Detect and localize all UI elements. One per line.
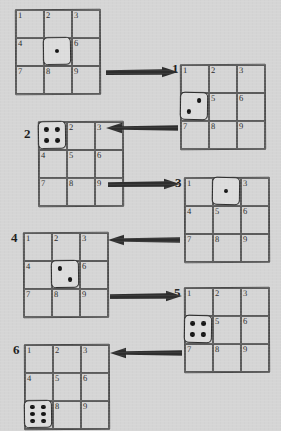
grid-cell-6[interactable]: 6: [241, 316, 269, 344]
arrow-left-icon: [110, 347, 182, 359]
grid-cell-9[interactable]: 9: [241, 344, 269, 372]
cell-number-label: 7: [187, 344, 191, 354]
grid-cell-4[interactable]: 4: [16, 38, 44, 66]
grid-cell-7[interactable]: 7: [24, 289, 52, 317]
arrow-left-icon: [106, 122, 178, 134]
grid-cell-2[interactable]: 2: [53, 345, 81, 373]
grid-cell-1[interactable]: 1: [25, 345, 53, 373]
grid-cell-6[interactable]: 6: [80, 261, 108, 289]
grid-cell-4[interactable]: 4: [24, 261, 52, 289]
cell-number-label: 8: [215, 234, 219, 244]
grid-cell-7[interactable]: 7: [181, 121, 209, 149]
grid-cell-8[interactable]: 8: [213, 344, 241, 372]
grid-cell-2[interactable]: 2: [209, 65, 237, 93]
cell-number-label: 7: [41, 178, 45, 188]
cell-number-label: 7: [26, 289, 30, 299]
grid-cell-3[interactable]: 3: [81, 345, 109, 373]
grid-cell-9[interactable]: 9: [72, 66, 100, 94]
grid-cell-3[interactable]: 3: [241, 178, 269, 206]
grid-cell-3[interactable]: 3: [237, 65, 265, 93]
grid-cell-1[interactable]: 1: [16, 10, 44, 38]
grid-cell-4[interactable]: 4: [39, 150, 67, 178]
grid-cell-7[interactable]: 7: [16, 66, 44, 94]
cell-number-label: 8: [54, 289, 58, 299]
grid-cell-7[interactable]: 7: [185, 344, 213, 372]
grid-cell-1[interactable]: 1: [185, 178, 213, 206]
die-face-2[interactable]: [180, 92, 208, 120]
arrow-left-icon: [108, 234, 180, 246]
cell-number-label: 3: [243, 288, 247, 298]
cell-number-label: 5: [215, 206, 219, 216]
grid-cell-5[interactable]: 5: [209, 93, 237, 121]
step-number-label: 2: [24, 127, 31, 140]
cell-number-label: 1: [183, 65, 187, 75]
die-face-6[interactable]: [24, 400, 52, 428]
grid-cell-5[interactable]: 5: [213, 316, 241, 344]
cell-number-label: 3: [243, 178, 247, 188]
cell-number-label: 7: [18, 66, 22, 76]
grid-cell-5[interactable]: 5: [213, 206, 241, 234]
die-face-2[interactable]: [51, 260, 79, 288]
grid-cell-8[interactable]: 8: [213, 234, 241, 262]
die-pip: [41, 419, 46, 424]
grid-cell-6[interactable]: 6: [241, 206, 269, 234]
cell-number-label: 9: [74, 66, 78, 76]
grid-cell-8[interactable]: 8: [44, 66, 72, 94]
grid-cell-4[interactable]: 4: [25, 373, 53, 401]
grid-cell-5[interactable]: 5: [67, 150, 95, 178]
grid-cell-8[interactable]: 8: [67, 178, 95, 206]
grid-cell-7[interactable]: 7: [185, 234, 213, 262]
die-pip: [190, 321, 195, 326]
cell-number-label: 1: [187, 178, 191, 188]
grid-cell-1[interactable]: 1: [181, 65, 209, 93]
grid-cell-1[interactable]: 1: [185, 288, 213, 316]
die-pip: [190, 332, 195, 337]
grid-cell-2[interactable]: 2: [213, 288, 241, 316]
cell-number-label: 2: [211, 65, 215, 75]
grid-cell-6[interactable]: 6: [72, 38, 100, 66]
grid-cell-6[interactable]: 6: [237, 93, 265, 121]
grid-cell-9[interactable]: 9: [241, 234, 269, 262]
cell-number-label: 8: [69, 178, 73, 188]
arrow-right-icon: [106, 66, 178, 78]
die-face-4[interactable]: [38, 121, 66, 149]
grid-cell-2[interactable]: 2: [44, 10, 72, 38]
grid-cell-6[interactable]: 6: [81, 373, 109, 401]
cell-number-label: 6: [243, 316, 247, 326]
cell-number-label: 7: [183, 121, 187, 131]
grid-cell-9[interactable]: 9: [81, 401, 109, 429]
grid-cell-8[interactable]: 8: [52, 289, 80, 317]
cell-number-label: 8: [55, 401, 59, 411]
grid-cell-2[interactable]: 2: [67, 122, 95, 150]
puzzle-grid: 123456789: [181, 65, 265, 149]
die-face-1[interactable]: [43, 37, 71, 65]
grid-cell-5[interactable]: 5: [53, 373, 81, 401]
cell-number-label: 9: [243, 344, 247, 354]
grid-cell-8[interactable]: 8: [209, 121, 237, 149]
cell-number-label: 2: [54, 233, 58, 243]
grid-cell-3[interactable]: 3: [72, 10, 100, 38]
die-pip: [201, 332, 206, 337]
cell-number-label: 8: [215, 344, 219, 354]
grid-cell-3[interactable]: 3: [241, 288, 269, 316]
grid-cell-4[interactable]: 4: [185, 206, 213, 234]
die-pip: [55, 138, 60, 143]
cell-number-label: 2: [215, 288, 219, 298]
grid-cell-2[interactable]: 2: [52, 233, 80, 261]
die-face-1[interactable]: [212, 177, 240, 205]
grid-cell-1[interactable]: 1: [24, 233, 52, 261]
die-pip: [201, 321, 206, 326]
puzzle-grid: 123456789: [185, 288, 269, 372]
grid-cell-9[interactable]: 9: [80, 289, 108, 317]
cell-number-label: 5: [211, 93, 215, 103]
die-face-4[interactable]: [184, 315, 212, 343]
cell-number-label: 2: [55, 345, 59, 355]
grid-cell-9[interactable]: 9: [237, 121, 265, 149]
grid-cell-6[interactable]: 6: [95, 150, 123, 178]
die-pip: [30, 405, 35, 410]
grid-cell-8[interactable]: 8: [53, 401, 81, 429]
grid-cell-7[interactable]: 7: [39, 178, 67, 206]
grid-cell-3[interactable]: 3: [80, 233, 108, 261]
arrow-right-icon: [108, 178, 180, 190]
die-pip: [41, 412, 46, 417]
